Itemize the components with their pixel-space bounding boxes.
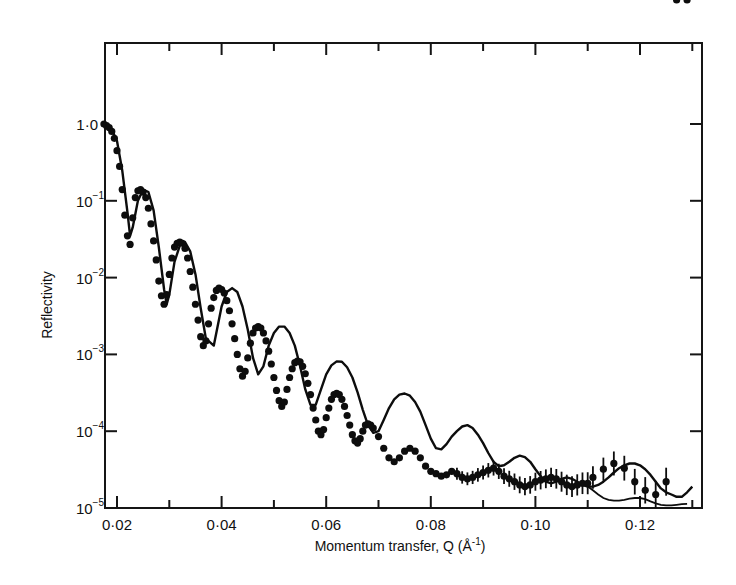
x-axis-title-close: ) bbox=[481, 538, 486, 554]
data-point bbox=[194, 316, 201, 323]
data-point bbox=[166, 271, 173, 278]
data-point bbox=[150, 237, 157, 244]
data-point bbox=[262, 337, 269, 344]
data-point bbox=[242, 368, 249, 375]
data-point bbox=[663, 478, 670, 485]
data-point bbox=[163, 291, 170, 298]
data-point bbox=[181, 245, 188, 252]
data-point bbox=[323, 414, 330, 421]
data-point bbox=[208, 305, 215, 312]
data-point bbox=[283, 386, 290, 393]
x-tick-label: 0·08 bbox=[416, 516, 446, 533]
data-point bbox=[341, 403, 348, 410]
data-point bbox=[145, 205, 152, 212]
data-point bbox=[417, 454, 424, 461]
data-point bbox=[380, 445, 387, 452]
data-point bbox=[260, 329, 267, 336]
data-point bbox=[184, 254, 191, 261]
data-point bbox=[346, 422, 353, 429]
data-point bbox=[226, 307, 233, 314]
data-point bbox=[111, 135, 118, 142]
data-point bbox=[155, 278, 162, 285]
data-point bbox=[325, 404, 332, 411]
data-point bbox=[210, 294, 217, 301]
data-point bbox=[422, 463, 429, 470]
x-tick-label: 0·10 bbox=[520, 516, 550, 533]
data-point bbox=[153, 256, 160, 263]
data-point bbox=[412, 448, 419, 455]
data-point bbox=[147, 220, 154, 227]
data-point bbox=[286, 374, 293, 381]
data-point bbox=[187, 268, 194, 275]
data-point bbox=[302, 370, 309, 377]
data-point bbox=[600, 466, 607, 473]
data-point bbox=[223, 297, 230, 304]
data-point bbox=[320, 426, 327, 433]
data-point bbox=[621, 465, 628, 472]
data-point bbox=[168, 254, 175, 261]
x-tick-label: 0·06 bbox=[311, 516, 341, 533]
data-point bbox=[589, 474, 596, 481]
x-tick-label: 0·12 bbox=[625, 516, 655, 533]
data-point bbox=[299, 363, 306, 370]
data-point bbox=[205, 320, 212, 327]
data-point bbox=[307, 391, 314, 398]
data-point bbox=[221, 289, 228, 296]
data-point bbox=[652, 491, 659, 498]
data-point bbox=[642, 487, 649, 494]
plot-area bbox=[100, 0, 692, 508]
y-tick-label: 10−5 bbox=[76, 497, 105, 517]
data-point bbox=[132, 194, 139, 201]
data-point bbox=[119, 186, 126, 193]
data-point bbox=[189, 284, 196, 291]
data-point bbox=[192, 301, 199, 308]
data-point bbox=[273, 387, 280, 394]
data-point bbox=[126, 241, 133, 248]
data-point bbox=[244, 354, 251, 361]
data-point bbox=[160, 301, 167, 308]
y-tick-label: 10−4 bbox=[76, 420, 105, 440]
y-tick-label: 1·0 bbox=[76, 116, 98, 133]
data-point bbox=[584, 480, 591, 487]
data-point bbox=[375, 433, 382, 440]
x-tick-label: 0·02 bbox=[102, 516, 132, 533]
x-axis-title: Momentum transfer, Q (Å-1) bbox=[315, 536, 486, 554]
data-point bbox=[370, 424, 377, 431]
x-axis-title-main: Momentum transfer, Q ( bbox=[315, 538, 463, 554]
data-point bbox=[113, 147, 120, 154]
data-point bbox=[310, 404, 317, 411]
data-point bbox=[228, 320, 235, 327]
data-point bbox=[231, 335, 238, 342]
data-point bbox=[338, 396, 345, 403]
data-point bbox=[357, 435, 364, 442]
reflectivity-chart: 0·020·040·060·080·100·12 1·010−110−210−3… bbox=[0, 0, 736, 585]
data-point bbox=[116, 163, 123, 170]
data-point bbox=[673, 0, 680, 4]
data-point bbox=[270, 374, 277, 381]
data-point bbox=[344, 412, 351, 419]
data-point bbox=[142, 194, 149, 201]
data-point bbox=[234, 351, 241, 358]
data-point bbox=[202, 337, 209, 344]
y-tick-label: 10−2 bbox=[76, 267, 105, 287]
data-point bbox=[683, 0, 690, 4]
x-tick-label: 0·04 bbox=[207, 516, 237, 533]
data-point bbox=[265, 348, 272, 355]
data-point bbox=[304, 380, 311, 387]
data-point bbox=[121, 212, 128, 219]
model-fit-curve bbox=[104, 124, 692, 497]
y-tick-label: 10−3 bbox=[76, 343, 105, 363]
data-point bbox=[108, 128, 115, 135]
y-axis-title: Reflectivity bbox=[39, 271, 55, 339]
data-point bbox=[268, 360, 275, 367]
data-point bbox=[631, 478, 638, 485]
y-tick-label: 10−1 bbox=[76, 190, 105, 210]
data-points bbox=[100, 0, 690, 508]
data-point bbox=[610, 460, 617, 467]
data-point bbox=[396, 454, 403, 461]
data-point bbox=[281, 398, 288, 405]
data-point bbox=[247, 340, 254, 347]
data-point bbox=[124, 232, 131, 239]
data-point bbox=[312, 416, 319, 423]
data-point bbox=[129, 214, 136, 221]
